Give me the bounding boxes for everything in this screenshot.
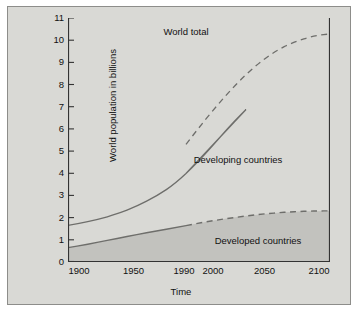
y-tick-label: 1 <box>42 235 64 245</box>
x-tick-label: 1900 <box>68 265 89 276</box>
x-tick-label: 2050 <box>254 265 275 276</box>
annotation-developing-countries: Developing countries <box>194 154 283 165</box>
y-tick-label: 6 <box>42 124 64 134</box>
y-tick-label: 2 <box>42 213 64 223</box>
world-total-projected-line <box>186 34 330 144</box>
x-tick-label: 2100 <box>308 265 329 276</box>
y-tick-label: 3 <box>42 190 64 200</box>
world-total-observed-line <box>68 110 246 226</box>
x-axis-title: Time <box>0 286 362 297</box>
y-tick-label: 9 <box>42 57 64 67</box>
y-tick-label: 8 <box>42 80 64 90</box>
y-axis-tick-labels: 11 10 9 8 7 6 5 4 3 2 1 0 <box>40 18 64 262</box>
population-projection-figure: 11 10 9 8 7 6 5 4 3 2 1 0 <box>0 0 362 318</box>
y-tick-label: 4 <box>42 168 64 178</box>
x-axis-tick-labels: 1900 1950 1990 2000 2050 2100 <box>0 265 362 279</box>
y-axis-title: World population in billions <box>107 26 118 186</box>
y-tick-label: 5 <box>42 146 64 156</box>
annotation-developed-countries: Developed countries <box>215 235 302 246</box>
x-tick-label: 1990 <box>173 265 194 276</box>
y-tick-label: 7 <box>42 102 64 112</box>
y-tick-label: 10 <box>42 35 64 45</box>
plot-area: World total Developing countries Develop… <box>68 18 330 262</box>
x-tick-label: 1950 <box>123 265 144 276</box>
annotation-world-total: World total <box>163 26 208 37</box>
y-tick-label: 11 <box>42 13 64 23</box>
x-tick-label: 2000 <box>202 265 223 276</box>
